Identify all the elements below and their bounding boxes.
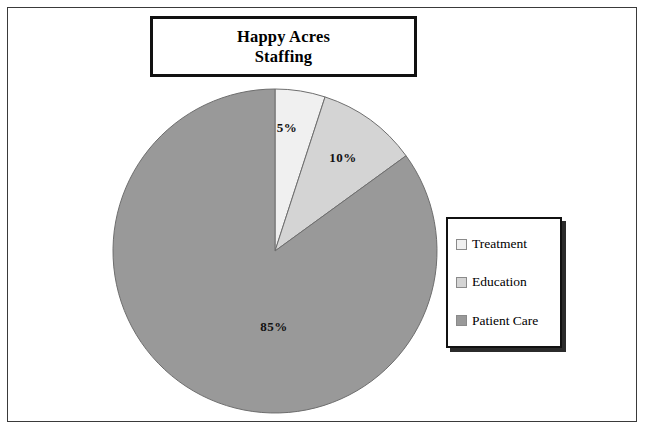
pie-slice-group — [113, 89, 437, 413]
legend-swatch-treatment — [456, 239, 467, 250]
chart-legend: Treatment Education Patient Care — [446, 217, 562, 348]
pie-svg — [112, 88, 438, 414]
pie-slice-label-treatment: 5% — [277, 120, 298, 136]
chart-title-line-1: Happy Acres — [237, 27, 330, 46]
chart-title-line-2: Staffing — [255, 47, 313, 66]
legend-item-treatment[interactable]: Treatment — [456, 234, 560, 254]
legend-label-education: Education — [472, 274, 527, 290]
legend-label-treatment: Treatment — [472, 236, 527, 252]
legend-item-patient-care[interactable]: Patient Care — [456, 311, 560, 331]
legend-item-education[interactable]: Education — [456, 272, 560, 292]
chart-canvas: Happy Acres Staffing 5% 10% 85% Treatmen… — [0, 0, 645, 435]
legend-swatch-education — [456, 277, 467, 288]
legend-label-patient-care: Patient Care — [472, 313, 538, 329]
pie-slice-label-education: 10% — [329, 150, 357, 166]
pie-slice-label-patient-care: 85% — [260, 319, 288, 335]
chart-title-box: Happy Acres Staffing — [150, 16, 417, 77]
legend-swatch-patient-care — [456, 315, 467, 326]
pie-chart — [112, 88, 438, 414]
